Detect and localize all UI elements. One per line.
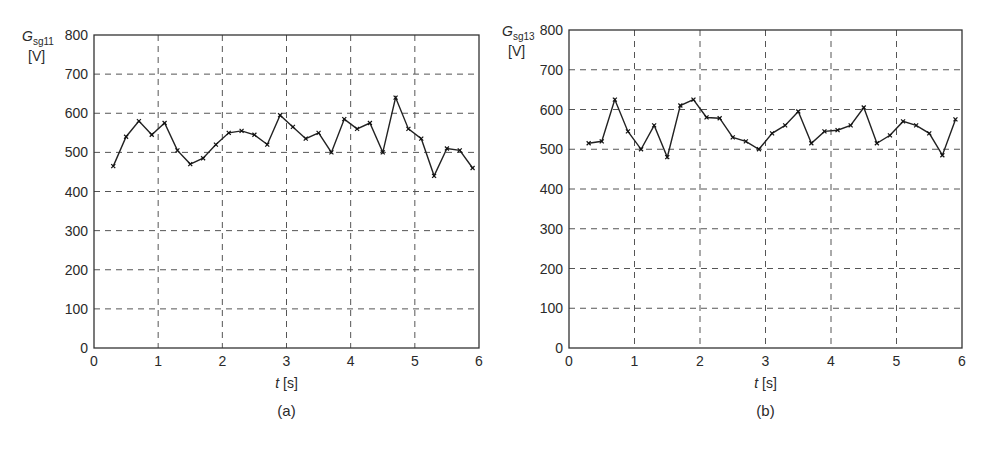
y-tick-label: 300 bbox=[65, 223, 89, 239]
data-line bbox=[589, 100, 956, 158]
y-tick-label: 600 bbox=[65, 105, 89, 121]
y-tick-label: 600 bbox=[540, 102, 564, 118]
y-tick-label: 700 bbox=[540, 62, 564, 78]
x-tick-label: 4 bbox=[827, 353, 835, 369]
y-tick-label: 300 bbox=[540, 221, 564, 237]
x-tick-label: 3 bbox=[283, 353, 291, 369]
data-point-marker bbox=[783, 123, 787, 127]
x-tick-label: 3 bbox=[762, 353, 770, 369]
data-point-marker bbox=[471, 166, 475, 170]
line-chart-a: 01234560100200300400500600700800Gsg11[V]… bbox=[0, 0, 492, 453]
y-tick-label: 800 bbox=[540, 22, 564, 38]
y-tick-label: 0 bbox=[80, 340, 88, 356]
y-tick-label: 100 bbox=[540, 300, 564, 316]
line-chart-b: 01234560100200300400500600700800Gsg13[V]… bbox=[492, 0, 985, 453]
y-tick-label: 100 bbox=[65, 301, 89, 317]
x-tick-label: 4 bbox=[347, 353, 355, 369]
y-tick-label: 400 bbox=[65, 184, 89, 200]
y-axis-label: Gsg11 bbox=[22, 28, 54, 47]
x-tick-label: 0 bbox=[565, 353, 573, 369]
y-axis-unit: [V] bbox=[28, 48, 45, 64]
y-tick-label: 800 bbox=[65, 27, 89, 43]
x-tick-label: 2 bbox=[218, 353, 226, 369]
x-tick-label: 5 bbox=[411, 353, 419, 369]
grid-lines bbox=[94, 35, 479, 348]
data-line bbox=[113, 98, 472, 176]
chart-panel-b: 01234560100200300400500600700800Gsg13[V]… bbox=[492, 0, 985, 453]
data-point-marker bbox=[150, 133, 154, 137]
x-axis-label: t [s] bbox=[275, 375, 298, 391]
x-tick-label: 5 bbox=[893, 353, 901, 369]
x-tick-label: 6 bbox=[958, 353, 966, 369]
x-tick-label: 0 bbox=[90, 353, 98, 369]
data-point-marker bbox=[927, 131, 931, 135]
x-tick-label: 2 bbox=[696, 353, 704, 369]
panel-label: (a) bbox=[277, 402, 295, 419]
y-tick-label: 200 bbox=[65, 262, 89, 278]
x-axis-label: t [s] bbox=[754, 375, 777, 391]
data-point-marker bbox=[770, 131, 774, 135]
chart-panel-a: 01234560100200300400500600700800Gsg11[V]… bbox=[0, 0, 492, 453]
data-point-marker bbox=[291, 125, 295, 129]
y-tick-label: 500 bbox=[540, 141, 564, 157]
data-point-marker bbox=[137, 119, 141, 123]
data-point-marker bbox=[214, 143, 218, 147]
y-axis-label: Gsg13 bbox=[502, 23, 535, 42]
x-tick-label: 1 bbox=[631, 353, 639, 369]
y-tick-label: 400 bbox=[540, 181, 564, 197]
y-axis-unit: [V] bbox=[508, 43, 525, 59]
y-tick-label: 200 bbox=[540, 261, 564, 277]
x-tick-label: 1 bbox=[154, 353, 162, 369]
panel-label: (b) bbox=[756, 402, 774, 419]
y-tick-label: 0 bbox=[555, 340, 563, 356]
data-point-marker bbox=[888, 133, 892, 137]
grid-lines bbox=[569, 30, 962, 348]
x-tick-label: 6 bbox=[475, 353, 483, 369]
y-tick-label: 700 bbox=[65, 66, 89, 82]
y-tick-label: 500 bbox=[65, 144, 89, 160]
